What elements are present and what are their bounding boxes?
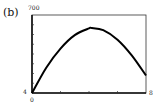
data-curve — [32, 28, 146, 93]
x-min-label: 0 — [30, 96, 34, 103]
y-min-label: 4 — [23, 88, 27, 95]
y-max-label: 700 — [28, 4, 39, 11]
x-max-label: 8 — [149, 89, 153, 96]
plot-frame — [32, 15, 146, 93]
